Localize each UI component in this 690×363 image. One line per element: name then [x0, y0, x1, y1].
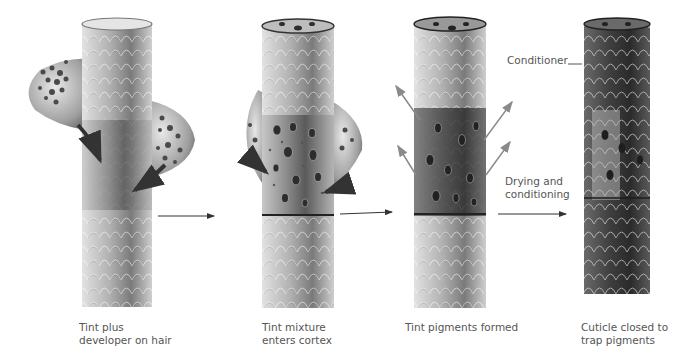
stage-2-label: Tint mixture enters cortex	[262, 321, 332, 347]
conditioner-annotation: Conditioner	[507, 54, 568, 67]
stage-3-label: Tint pigments formed	[405, 321, 518, 334]
pigment-arrow-2	[398, 146, 416, 175]
stage-1-illustration	[29, 18, 195, 307]
diagram-canvas	[0, 0, 690, 363]
tint-blob-right-2	[330, 100, 362, 190]
stage-3-illustration	[396, 17, 512, 308]
pigment-arrow-3	[484, 102, 512, 140]
stage-4-illustration	[568, 18, 650, 294]
stage-1-label: Tint plus developer on hair	[79, 321, 172, 347]
stage-2-illustration	[246, 19, 362, 308]
stage-4-label: Cuticle closed to trap pigments	[581, 321, 668, 347]
pigment-arrow-4	[486, 142, 510, 175]
drying-conditioning-annotation: Drying and conditioning	[505, 175, 570, 201]
flow-arrow-2	[340, 212, 392, 214]
